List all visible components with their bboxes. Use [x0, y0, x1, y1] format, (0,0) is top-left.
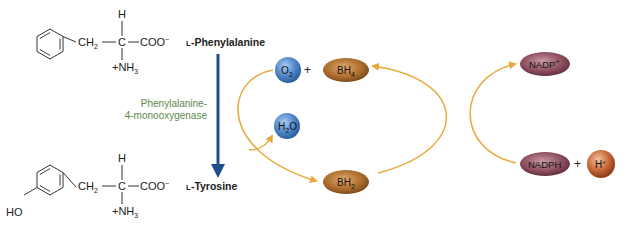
phenol-ring-icon: [37, 165, 63, 195]
enzyme-label-line2: 4-monooxygenase: [125, 110, 208, 121]
reaction-arrow: [211, 54, 225, 178]
phe-ch2-label: CH2: [78, 36, 98, 50]
tyr-ho-label: HO: [6, 206, 23, 218]
phe-coo-label: COO−: [140, 36, 169, 48]
phe-nh3-label: +NH3: [112, 61, 138, 75]
substrate-label: L-Phenylalanine: [186, 36, 265, 48]
tyr-ch2-label: CH2: [78, 180, 98, 194]
phe-c-label: C: [118, 36, 126, 48]
nadph-cofactor: NADPH: [520, 152, 570, 176]
phe-h-label: H: [118, 8, 126, 20]
benzene-ring-icon: [37, 29, 63, 59]
svg-text:NADPH: NADPH: [528, 159, 561, 170]
product-label: L-Tyrosine: [186, 180, 238, 192]
h2o-release-arrow: [249, 136, 272, 150]
bh4-cofactor: BH4: [323, 58, 369, 82]
proton: H+: [587, 150, 615, 178]
plus-sign: +: [304, 63, 311, 77]
tyr-h-label: H: [118, 152, 126, 164]
pathway-diagram: H CH2 C COO− +NH3 L-Phenylalanine HO H C…: [0, 0, 629, 239]
o2-molecule: O2: [275, 57, 301, 83]
enzyme-label-line1: Phenylalanine-: [141, 98, 207, 109]
nadph-to-nadp-arrow: [470, 64, 516, 163]
tyr-coo-label: COO−: [140, 180, 169, 192]
tyr-nh3-label: +NH3: [112, 205, 138, 219]
svg-text:NADP+: NADP+: [529, 58, 560, 70]
tyr-c-label: C: [118, 180, 126, 192]
bh2-cofactor: BH2: [323, 170, 369, 194]
nadp-cofactor: NADP+: [520, 52, 570, 76]
h2o-molecule: H2O: [274, 113, 300, 139]
plus-sign-2: +: [574, 157, 581, 171]
bh2-to-bh4-arrow: [373, 66, 446, 173]
